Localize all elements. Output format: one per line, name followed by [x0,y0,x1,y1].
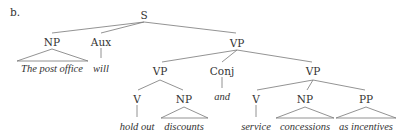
edge-vpr-v [257,80,313,90]
node-aux: Aux [90,36,111,48]
edge-vp-vp-right [237,50,312,62]
edge-s-vp [144,22,236,33]
edge-vpr-np [307,80,313,90]
leaf-np-left: discounts [164,121,204,132]
leaf-v-left: hold out [120,121,156,132]
edge-s-np [52,22,144,33]
node-np-left: NP [176,93,192,105]
triangle-pp-right [336,107,396,118]
leaf-np-subj: The post office [21,63,83,74]
node-v-right: V [251,93,260,105]
edge-vpl-np [160,80,183,90]
triangle-np-right [276,107,334,118]
triangle-np-subj [17,49,88,61]
node-pp-right: PP [359,93,373,105]
node-np-subj: NP [44,36,60,48]
leaf-v-right: service [241,121,271,132]
example-label: b. [10,6,20,18]
tree-leaves: The post office will and hold out discou… [21,63,393,132]
edge-s-aux [101,22,144,33]
syntax-tree: b. S NP Aux VP VP [0,0,408,140]
node-s: S [140,9,147,21]
node-np-right: NP [297,93,313,105]
node-vp-right: VP [305,65,321,77]
node-vp-top: VP [229,37,245,49]
node-conj: Conj [210,65,234,77]
leaf-aux: will [93,63,109,74]
leaf-pp-right: as incentives [339,121,393,132]
leaf-conj: and [214,91,231,102]
triangle-np-left [161,107,208,118]
tree-nodes: S NP Aux VP VP Conj VP V NP V NP PP [44,9,373,105]
edge-vpr-pp [313,80,365,90]
edge-vp-vp-left [162,50,237,62]
edge-vpl-v [138,80,160,90]
node-v-left: V [132,93,141,105]
node-vp-left: VP [152,65,168,77]
leaf-np-right: concessions [280,121,330,132]
